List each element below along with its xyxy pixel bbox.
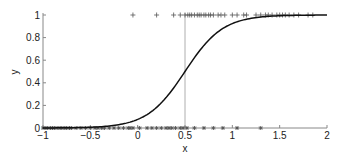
plus-marker [235, 13, 240, 18]
plus-marker [222, 13, 227, 18]
star-marker [202, 126, 206, 130]
y-tick-label: 0 [34, 123, 40, 134]
x-tick-label: −0.5 [80, 130, 100, 141]
logistic-chart: −1−0.500.511.5200.20.40.60.81 x y [0, 0, 343, 157]
star-marker [117, 126, 121, 130]
star-marker [150, 126, 154, 130]
plus-marker [178, 13, 183, 18]
y-tick-label: 0.8 [26, 32, 40, 43]
star-marker [112, 126, 116, 130]
plus-marker [154, 13, 159, 18]
star-marker [211, 126, 215, 130]
star-marker [131, 126, 135, 130]
star-marker [192, 126, 196, 130]
star-marker [138, 126, 142, 130]
x-tick-label: 1.5 [273, 130, 287, 141]
y-tick-label: 0.6 [26, 55, 40, 66]
star-marker [145, 126, 149, 130]
plus-marker [171, 13, 176, 18]
star-marker [181, 126, 185, 130]
star-marker [221, 126, 225, 130]
plus-marker [211, 13, 216, 18]
x-tick-label: 2 [324, 130, 330, 141]
star-marker [159, 126, 163, 130]
star-marker [185, 126, 189, 130]
star-marker [174, 126, 178, 130]
y-axis-label: y [9, 70, 20, 75]
plus-marker [230, 13, 235, 18]
plus-marker [130, 13, 135, 18]
x-tick-label: 0.5 [178, 130, 192, 141]
star-marker [121, 126, 125, 130]
star-marker [259, 126, 263, 130]
axes: −1−0.500.511.5200.20.40.60.81 [26, 10, 330, 142]
y-tick-label: 1 [34, 10, 40, 21]
x-tick-label: 1 [230, 130, 236, 141]
y-tick-label: 0.4 [26, 77, 40, 88]
star-marker [155, 126, 159, 130]
x-axis-label: x [183, 143, 188, 154]
x-tick-label: 0 [135, 130, 141, 141]
star-marker [170, 126, 174, 130]
star-marker [235, 126, 239, 130]
y-tick-label: 0.2 [26, 100, 40, 111]
plus-marker [244, 13, 249, 18]
